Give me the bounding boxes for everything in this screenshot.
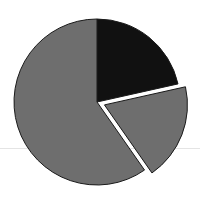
- pie-chart: [0, 0, 200, 201]
- pie-slice-1: [97, 19, 178, 102]
